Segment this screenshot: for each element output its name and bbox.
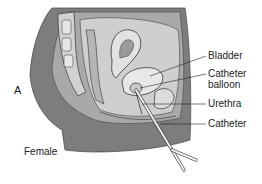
label-catheter-balloon-line1: Catheter [208,68,246,79]
panel-letter: A [14,84,21,96]
label-catheter: Catheter [208,118,246,129]
label-catheter-balloon-line2: balloon [208,79,240,90]
label-female: Female [24,146,57,157]
label-bladder: Bladder [208,50,242,61]
label-urethra: Urethra [208,98,241,109]
